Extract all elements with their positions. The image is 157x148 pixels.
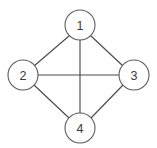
- node-label-3: 3: [131, 69, 138, 83]
- graph-node-1[interactable]: 1: [65, 10, 95, 40]
- node-group: 1 2 3 4: [8, 10, 149, 143]
- edge-1-2: [34, 36, 69, 66]
- graph-node-4[interactable]: 4: [65, 113, 95, 143]
- edge-1-3: [91, 36, 123, 66]
- edge-group: [34, 36, 123, 118]
- graph-canvas: 1 2 3 4: [0, 0, 157, 148]
- graph-diagram: 1 2 3 4: [0, 0, 157, 148]
- node-label-2: 2: [20, 69, 27, 83]
- edge-2-4: [34, 85, 69, 118]
- edge-3-4: [91, 85, 123, 118]
- graph-node-3[interactable]: 3: [119, 60, 149, 90]
- node-label-1: 1: [77, 19, 84, 33]
- node-label-4: 4: [77, 122, 84, 136]
- graph-node-2[interactable]: 2: [8, 60, 38, 90]
